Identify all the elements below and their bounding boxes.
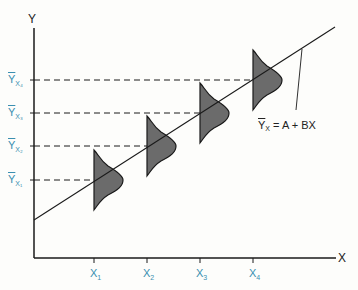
x-tick-label-1: X1: [90, 268, 101, 281]
y-tick-label-2: YX₂: [8, 140, 23, 153]
x-tick-label-3: X3: [196, 268, 207, 281]
y-tick-label-3: YX₃: [8, 107, 23, 120]
distribution-curve-1: [94, 150, 123, 210]
x-tick-label-4: X4: [249, 268, 260, 281]
y-axis-title: Y: [28, 12, 36, 26]
regression-diagram: [0, 0, 358, 290]
regression-equation: YX = A + BX: [258, 119, 316, 132]
equation-leader-line: [296, 49, 302, 110]
x-tick-label-2: X2: [143, 268, 154, 281]
distribution-curve-2: [147, 116, 176, 176]
x-axis-title: X: [338, 251, 346, 265]
y-tick-label-1: YX₁: [8, 174, 22, 187]
distribution-curve-3: [200, 83, 229, 143]
distribution-curve-4: [253, 50, 282, 110]
y-tick-label-4: YX₄: [8, 74, 23, 87]
